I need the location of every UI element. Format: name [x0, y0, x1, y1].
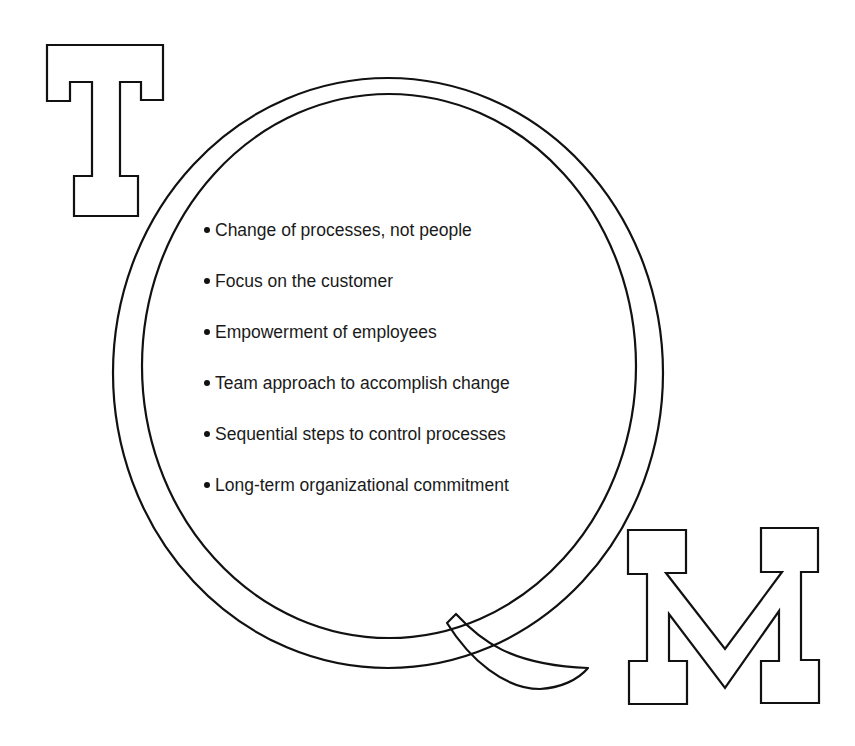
principle-label: Change of processes, not people — [215, 219, 472, 241]
letter-m — [628, 528, 819, 704]
principle-item: Team approach to accomplish change — [204, 372, 510, 423]
principle-label: Focus on the customer — [215, 270, 393, 292]
principle-item: Empowerment of employees — [204, 321, 510, 372]
principle-item: Sequential steps to control processes — [204, 423, 510, 474]
q-tail — [447, 614, 588, 689]
principles-list: Change of processes, not people Focus on… — [204, 219, 510, 525]
principle-label: Sequential steps to control processes — [215, 423, 506, 445]
letter-t — [47, 45, 163, 216]
bullet-icon — [204, 431, 210, 437]
bullet-icon — [204, 482, 210, 488]
bullet-icon — [204, 227, 210, 233]
principle-item: Change of processes, not people — [204, 219, 510, 270]
bullet-icon — [204, 278, 210, 284]
principle-label: Empowerment of employees — [215, 321, 437, 343]
principle-label: Team approach to accomplish change — [215, 372, 510, 394]
principle-item: Long-term organizational commitment — [204, 474, 510, 525]
bullet-icon — [204, 380, 210, 386]
principle-label: Long-term organizational commitment — [215, 474, 509, 496]
principle-item: Focus on the customer — [204, 270, 510, 321]
bullet-icon — [204, 329, 210, 335]
